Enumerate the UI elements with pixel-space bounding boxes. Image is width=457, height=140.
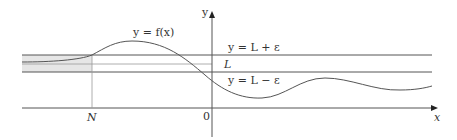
limit-label: L bbox=[223, 58, 231, 71]
y-axis-arrow-icon bbox=[209, 11, 215, 18]
origin-label: 0 bbox=[203, 110, 210, 123]
x-axis-label: x bbox=[434, 111, 441, 124]
upper-band-label: y = L + ε bbox=[227, 41, 280, 54]
limit-diagram: y = f(x) y = L + ε L y = L − ε x y 0 N bbox=[0, 0, 457, 140]
lower-band-label: y = L − ε bbox=[227, 74, 280, 87]
n-label: N bbox=[86, 111, 97, 124]
y-axis-label: y bbox=[201, 6, 209, 19]
curve-label: y = f(x) bbox=[132, 26, 174, 39]
